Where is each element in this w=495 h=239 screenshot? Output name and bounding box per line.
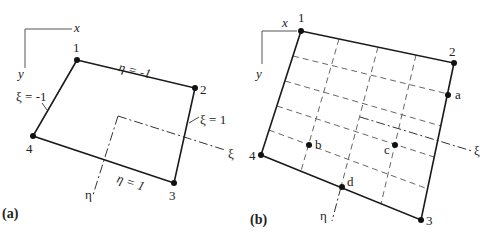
xi-axis-label: ξ [228, 146, 234, 161]
edge-label-left: ξ = -1 [16, 89, 46, 104]
isoparametric-element-diagram: x y ξ η 1 2 3 4 η = -1 η = 1 ξ = -1 ξ = … [0, 0, 495, 239]
edge-label-top: η = -1 [117, 59, 152, 81]
node-3-label: 3 [169, 188, 176, 203]
y-axis-label: y [16, 66, 24, 81]
eta-axis [93, 116, 118, 195]
eta-axis-label: η [320, 208, 327, 223]
panel-a-label: (a) [2, 206, 19, 222]
element-outline [33, 60, 195, 183]
grid-row-line [277, 106, 434, 157]
x-axis-label: x [281, 15, 288, 30]
node-2 [192, 85, 198, 91]
point-d [339, 184, 345, 190]
node-2 [451, 60, 457, 66]
xi-axis [360, 117, 472, 151]
edge-label-bottom: η = 1 [115, 171, 146, 194]
global-axes-frame [25, 29, 72, 68]
node-4 [30, 133, 36, 139]
mesh-grid [269, 39, 448, 204]
panel-b-label: (b) [250, 212, 267, 228]
node-2-label: 2 [200, 82, 207, 97]
node-1 [298, 28, 304, 34]
node-2-label: 2 [449, 44, 456, 59]
grid-col-line [381, 55, 416, 204]
grid-row-line [293, 56, 448, 94]
edge-label-right-leader [189, 117, 199, 123]
node-1 [74, 57, 80, 63]
eta-axis [332, 187, 341, 221]
eta-axis-label: η [85, 187, 92, 202]
grid-row-line [285, 81, 441, 126]
node-4 [258, 152, 264, 158]
point-a-label: a [455, 87, 461, 102]
edge-label-left-leader [42, 103, 47, 110]
node-3 [418, 217, 424, 223]
point-a [445, 92, 451, 98]
point-c-label: c [384, 142, 390, 157]
y-axis-label: y [254, 66, 262, 81]
panel-a: x y ξ η 1 2 3 4 η = -1 η = 1 ξ = -1 ξ = … [2, 20, 234, 222]
node-4-label: 4 [249, 148, 256, 163]
point-c [392, 142, 398, 148]
point-b [306, 142, 312, 148]
x-axis-label: x [73, 20, 80, 35]
panel-b: x y ξ η 1 2 3 4 a [249, 10, 480, 228]
point-d-label: d [347, 174, 354, 189]
grid-col-line [341, 47, 378, 187]
node-3 [171, 180, 177, 186]
node-1-label: 1 [298, 10, 305, 25]
node-1-label: 1 [73, 40, 80, 55]
edge-label-right: ξ = 1 [200, 112, 226, 127]
xi-axis-label: ξ [474, 143, 480, 158]
node-3-label: 3 [426, 213, 433, 228]
point-b-label: b [315, 137, 322, 152]
node-4-label: 4 [26, 141, 33, 156]
